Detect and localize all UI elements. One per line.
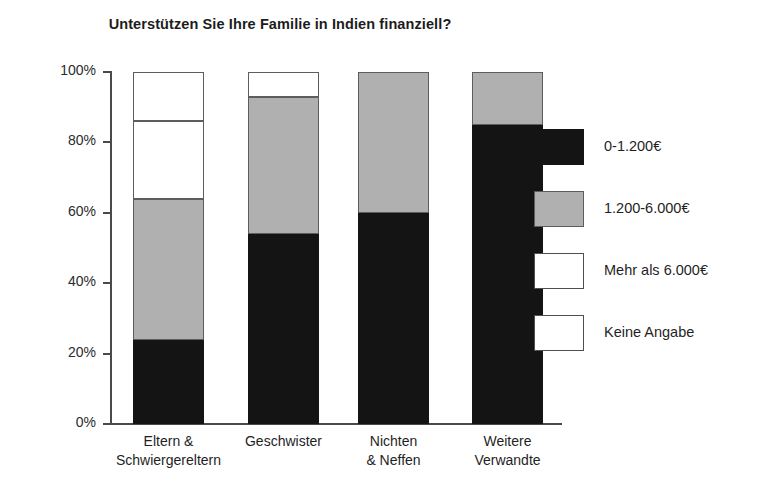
category-label-line: Verwandte: [438, 451, 578, 470]
legend-item[interactable]: 0-1.200€: [534, 129, 762, 165]
bar-segment[interactable]: [472, 125, 543, 424]
chart-legend: 0-1.200€1.200-6.000€Mehr als 6.000€Keine…: [534, 129, 762, 377]
legend-item[interactable]: Mehr als 6.000€: [534, 253, 762, 289]
y-axis-label: 20%: [30, 344, 96, 360]
legend-label: Mehr als 6.000€: [604, 262, 708, 278]
chart-container: Unterstützen Sie Ihre Familie in Indien …: [0, 0, 766, 491]
plot-area: [110, 72, 562, 424]
bar-segment[interactable]: [133, 199, 204, 340]
category-label-line: Weitere: [438, 432, 578, 451]
y-axis-label: 0%: [30, 414, 96, 430]
legend-label: Keine Angabe: [604, 324, 694, 340]
bar-column[interactable]: [248, 72, 319, 424]
bar-segment[interactable]: [358, 72, 429, 213]
legend-item[interactable]: Keine Angabe: [534, 315, 762, 351]
bar-column[interactable]: [133, 72, 204, 424]
category-label-line: Schwiergereltern: [99, 451, 239, 470]
bar-column[interactable]: [358, 72, 429, 424]
bar-segment[interactable]: [248, 234, 319, 424]
bar-segment[interactable]: [472, 72, 543, 125]
x-axis-category-label: WeitereVerwandte: [438, 432, 578, 470]
chart-title: Unterstützen Sie Ihre Familie in Indien …: [0, 16, 560, 32]
y-axis-label: 60%: [30, 203, 96, 219]
legend-item[interactable]: 1.200-6.000€: [534, 191, 762, 227]
bar-segment[interactable]: [358, 213, 429, 424]
bar-segment[interactable]: [248, 72, 319, 97]
bar-column[interactable]: [472, 72, 543, 424]
legend-label: 1.200-6.000€: [604, 200, 689, 216]
legend-swatch-icon: [534, 315, 584, 351]
bar-segment[interactable]: [248, 97, 319, 234]
legend-swatch-icon: [534, 191, 584, 227]
bar-segment[interactable]: [133, 72, 204, 121]
bar-segment[interactable]: [133, 121, 204, 198]
legend-label: 0-1.200€: [604, 138, 661, 154]
y-axis-label: 40%: [30, 273, 96, 289]
y-axis-label: 80%: [30, 132, 96, 148]
legend-swatch-icon: [534, 253, 584, 289]
bar-segment[interactable]: [133, 340, 204, 424]
legend-swatch-icon: [534, 129, 584, 165]
y-axis-label: 100%: [30, 62, 96, 78]
